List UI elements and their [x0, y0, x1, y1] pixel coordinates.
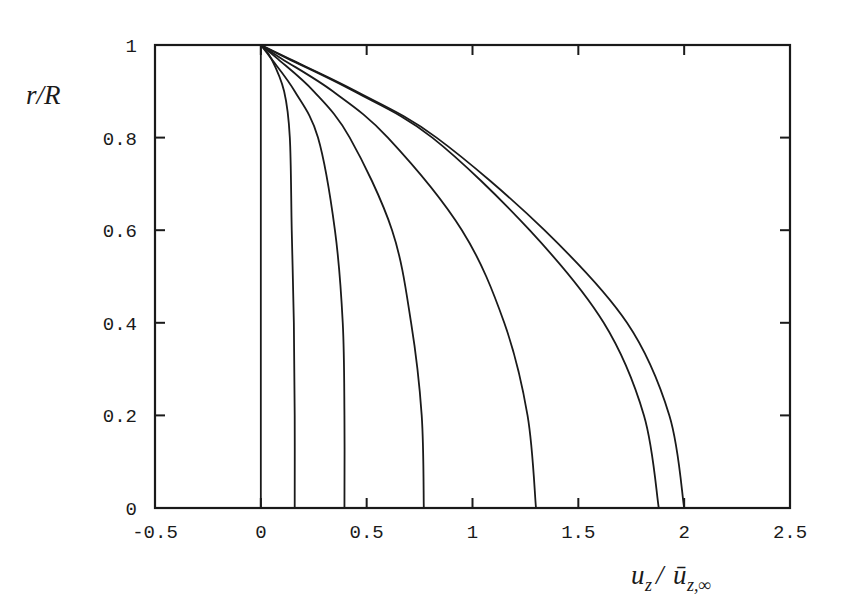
velocity-profile-chart: -0.500.511.522.5 00.20.40.60.81 r/R u z …: [0, 0, 854, 611]
x-tick-label: 1: [467, 522, 478, 544]
x-axis-label-u: u: [631, 560, 645, 590]
y-tick-label: 0.2: [103, 406, 137, 428]
y-tick-label: 0: [126, 499, 137, 521]
y-tick-label: 0.6: [103, 221, 137, 243]
y-axis-tick-labels: 00.20.40.60.81: [103, 36, 137, 521]
x-axis-label-ubar: ū: [673, 560, 687, 590]
curve-profile-3: [261, 45, 345, 508]
x-tick-label: 1.5: [561, 522, 595, 544]
curve-profile-7: [261, 45, 684, 508]
x-axis-label-sub-z: z: [644, 575, 652, 595]
y-axis-label: r/R: [26, 80, 61, 110]
x-axis-ticks: [261, 45, 684, 508]
x-axis-label-sub-zinf: z,∞: [686, 575, 711, 595]
x-tick-label: 0.5: [350, 522, 384, 544]
y-tick-label: 1: [126, 36, 137, 58]
x-axis-label: u z / ū z,∞: [631, 560, 711, 595]
y-tick-label: 0.4: [103, 314, 137, 336]
x-tick-label: -0.5: [132, 522, 178, 544]
y-axis-ticks: [155, 138, 790, 416]
x-tick-label: 0: [255, 522, 266, 544]
curve-profile-6: [261, 45, 659, 508]
x-axis-label-slash: /: [654, 560, 666, 590]
curve-profile-2: [261, 45, 295, 508]
y-tick-label: 0.8: [103, 129, 137, 151]
x-tick-label: 2: [678, 522, 689, 544]
profile-curves: [261, 45, 684, 508]
x-tick-label: 2.5: [773, 522, 807, 544]
plot-frame: [155, 45, 790, 508]
x-axis-tick-labels: -0.500.511.522.5: [132, 522, 807, 544]
